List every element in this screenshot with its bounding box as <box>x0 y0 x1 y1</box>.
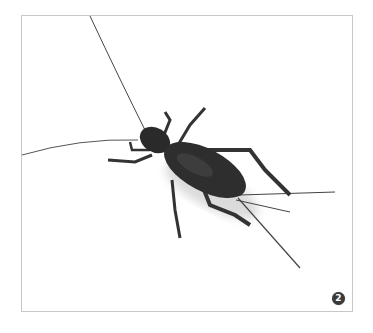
cricket-photo <box>0 0 373 333</box>
figure-number-badge: 2 <box>332 292 345 305</box>
